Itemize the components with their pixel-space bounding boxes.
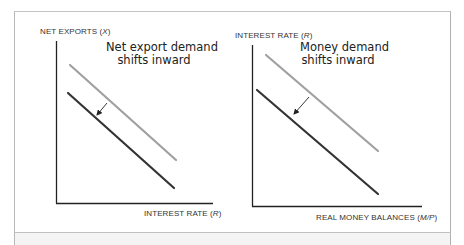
shifted-net-export-demand-curve	[68, 93, 174, 188]
money-demand-x-axis-label: REAL MONEY BALANCES (M/P)	[316, 213, 437, 222]
shifted-money-demand-curve	[257, 90, 378, 194]
original-net-export-demand-curve	[70, 65, 176, 160]
net-exports-y-axis-label: NET EXPORTS (X)	[40, 27, 111, 36]
shift-arrow-icon	[97, 103, 107, 115]
original-money-demand-curve	[266, 55, 378, 151]
annotation-line-2: shifts inward	[106, 54, 202, 67]
money-demand-panel	[252, 45, 422, 207]
annotation-line-2: shifts inward	[300, 54, 376, 67]
money-demand-y-axis-label: INTEREST RATE (R)	[235, 31, 312, 40]
net-exports-x-axis-label: INTEREST RATE (R)	[144, 209, 221, 218]
net-exports-annotation: Net export demand shifts inward	[106, 41, 202, 67]
shift-arrow-icon	[294, 97, 309, 114]
money-demand-annotation: Money demand shifts inward	[300, 41, 376, 67]
diagram-canvas	[0, 0, 464, 245]
